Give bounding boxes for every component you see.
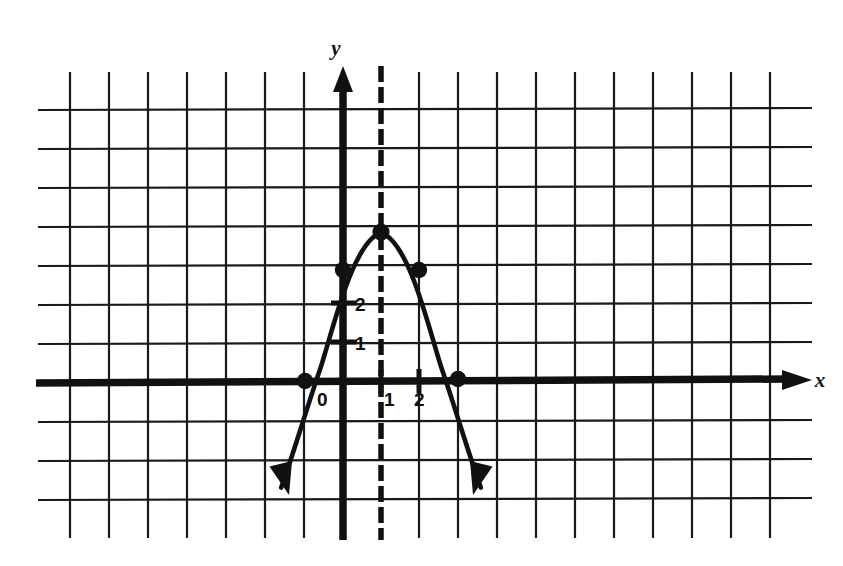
grid-horizontal-lines: [38, 108, 812, 500]
x-axis-label: x: [814, 368, 826, 392]
tick-label-x-one: 1: [384, 389, 395, 410]
y-axis-label: y: [328, 36, 341, 60]
point-symmetric: [411, 262, 427, 278]
point-root-left: [297, 373, 313, 389]
tick-label-y-two: 2: [355, 294, 366, 315]
figure-canvas: y x 0 1 2 2 1: [0, 0, 843, 566]
tick-label-x-two: 2: [414, 389, 425, 410]
point-y-intercept: [335, 262, 351, 278]
point-vertex: [372, 223, 389, 240]
tick-label-origin: 0: [317, 389, 328, 410]
point-root-right: [450, 371, 466, 387]
parabola-graph: y x 0 1 2 2 1: [0, 0, 843, 566]
x-axis: [36, 370, 812, 390]
tick-label-y-one: 1: [355, 333, 366, 354]
